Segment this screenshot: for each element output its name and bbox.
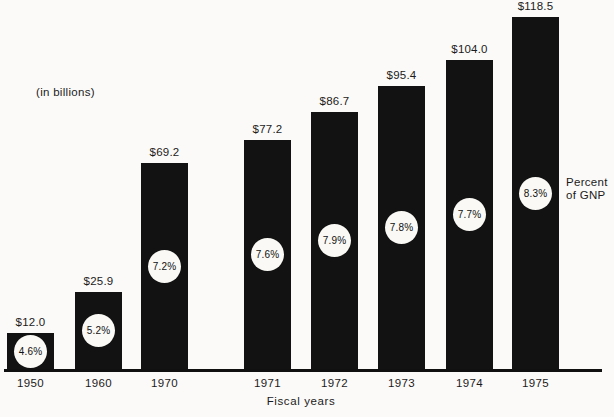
percent-label-1974: 7.7%	[458, 209, 482, 220]
amount-label-1970: $69.2	[116, 146, 213, 160]
x-axis-line	[4, 369, 602, 372]
percent-label-1971: 7.6%	[256, 249, 280, 260]
year-label-1950: 1950	[0, 377, 69, 389]
bar-1971: 7.6%	[244, 140, 291, 369]
bar-1950: 4.6%	[7, 333, 54, 369]
bar-1975: 8.3%	[512, 17, 559, 369]
bar-1974: 7.7%	[446, 60, 493, 369]
amount-label-1972: $86.7	[286, 95, 383, 109]
bar-1970: 7.2%	[141, 163, 188, 369]
percent-label-1972: 7.9%	[323, 235, 347, 246]
bar-chart-figure: (in billions) Percent of GNP $12.04.6%19…	[0, 0, 614, 417]
amount-label-1975: $118.5	[487, 0, 584, 14]
year-label-1970: 1970	[126, 377, 203, 389]
year-label-1972: 1972	[296, 377, 373, 389]
percent-circle-1974: 7.7%	[453, 198, 486, 231]
bar-1960: 5.2%	[75, 292, 122, 369]
bar-1973: 7.8%	[378, 86, 425, 369]
bar-1972: 7.9%	[311, 112, 358, 369]
percent-label-1975: 8.3%	[524, 188, 548, 199]
percent-circle-1971: 7.6%	[251, 238, 284, 271]
percent-of-gnp-label: Percent of GNP	[566, 176, 608, 202]
year-label-1973: 1973	[363, 377, 440, 389]
in-billions-label: (in billions)	[36, 86, 95, 99]
percent-label-1950: 4.6%	[19, 346, 43, 357]
percent-circle-1973: 7.8%	[385, 211, 418, 244]
percent-label-1973: 7.8%	[390, 222, 414, 233]
percent-circle-1975: 8.3%	[519, 177, 552, 210]
percent-label-1970: 7.2%	[153, 261, 177, 272]
amount-label-1960: $25.9	[50, 275, 147, 289]
percent-circle-1972: 7.9%	[318, 224, 351, 257]
year-label-1971: 1971	[229, 377, 306, 389]
amount-label-1973: $95.4	[353, 69, 450, 83]
percent-circle-1950: 4.6%	[14, 335, 47, 368]
percent-circle-1960: 5.2%	[82, 314, 115, 347]
percent-circle-1970: 7.2%	[148, 250, 181, 283]
year-label-1975: 1975	[497, 377, 574, 389]
percent-label-1960: 5.2%	[87, 325, 111, 336]
x-axis-title: Fiscal years	[0, 395, 602, 407]
amount-label-1950: $12.0	[0, 316, 79, 330]
amount-label-1971: $77.2	[219, 123, 316, 137]
amount-label-1974: $104.0	[421, 43, 518, 57]
